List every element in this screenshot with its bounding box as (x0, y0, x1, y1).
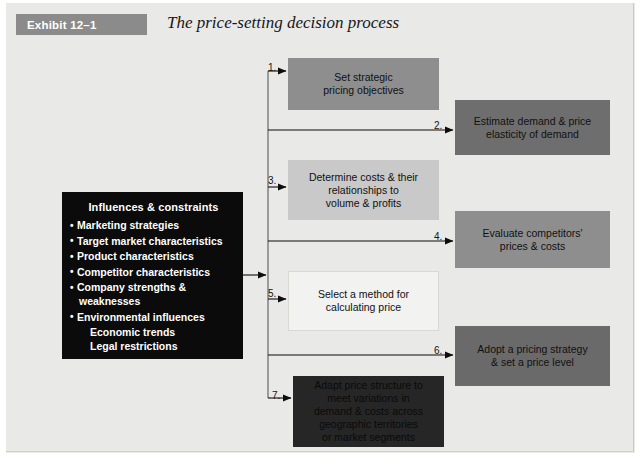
list-item: Marketing strategies (70, 219, 237, 233)
step-number-3: 3. (268, 175, 276, 186)
step-box-5-select-a-method-for-calculating-price: Select a method forcalculating price (288, 271, 439, 331)
step-box-7-adapt-price-structure: Adapt price structure tomeet variations … (293, 376, 444, 447)
step-box-label: Adapt price structure tomeet variations … (314, 379, 423, 444)
step-number-2: 2. (434, 120, 442, 131)
step-box-1-set-strategic-pricing-objectives: Set strategicpricing objectives (288, 58, 439, 110)
influences-and-constraints-box: Influences & constraints Marketing strat… (62, 192, 243, 359)
list-item: Target market characteristics (70, 235, 237, 249)
step-number-4: 4. (434, 231, 442, 242)
step-box-label: Set strategicpricing objectives (323, 71, 404, 97)
influences-item-text: Company strengths & (77, 281, 186, 293)
step-box-label: Select a method forcalculating price (318, 288, 409, 314)
influences-list: Marketing strategies Target market chara… (70, 219, 237, 324)
step-box-label: Estimate demand & priceelasticity of dem… (474, 115, 591, 141)
influences-subitem: Economic trends (70, 326, 237, 340)
step-number-6: 6. (434, 345, 442, 356)
list-item: Company strengths & weaknesses (70, 281, 237, 308)
exhibit-label-text: Exhibit 12–1 (27, 19, 97, 31)
step-number-7: 7. (272, 390, 280, 401)
influences-item-wrap: weaknesses (77, 295, 237, 309)
step-box-3-determine-costs: Determine costs & theirrelationships tov… (288, 160, 439, 220)
step-box-4-evaluate-competitors-prices-and-costs: Evaluate competitors'prices & costs (455, 211, 610, 268)
step-box-label: Determine costs & theirrelationships tov… (309, 171, 418, 210)
list-item: Product characteristics (70, 250, 237, 264)
influences-heading: Influences & constraints (70, 201, 237, 213)
influences-subitem: Legal restrictions (70, 340, 237, 354)
influences-item-text: Product characteristics (77, 250, 194, 262)
step-box-label: Adopt a pricing strategy& set a price le… (477, 343, 587, 369)
step-box-label: Evaluate competitors'prices & costs (482, 227, 582, 253)
influences-item-text: Competitor characteristics (77, 266, 210, 278)
influences-item-text: Marketing strategies (77, 219, 179, 231)
page-title: The price-setting decision process (167, 13, 399, 33)
step-number-1: 1. (268, 62, 276, 73)
exhibit-figure: Exhibit 12–1 The price-setting decision … (0, 0, 641, 471)
list-item: Environmental influences (70, 311, 237, 325)
exhibit-label-banner: Exhibit 12–1 (16, 14, 147, 35)
step-box-2-estimate-demand-and-price-elasticity: Estimate demand & priceelasticity of dem… (455, 100, 610, 155)
list-item: Competitor characteristics (70, 266, 237, 280)
influences-item-text: Target market characteristics (77, 235, 223, 247)
step-box-6-adopt-a-pricing-strategy: Adopt a pricing strategy& set a price le… (455, 326, 610, 386)
influences-item-text: Environmental influences (77, 311, 205, 323)
step-number-5: 5. (268, 288, 276, 299)
